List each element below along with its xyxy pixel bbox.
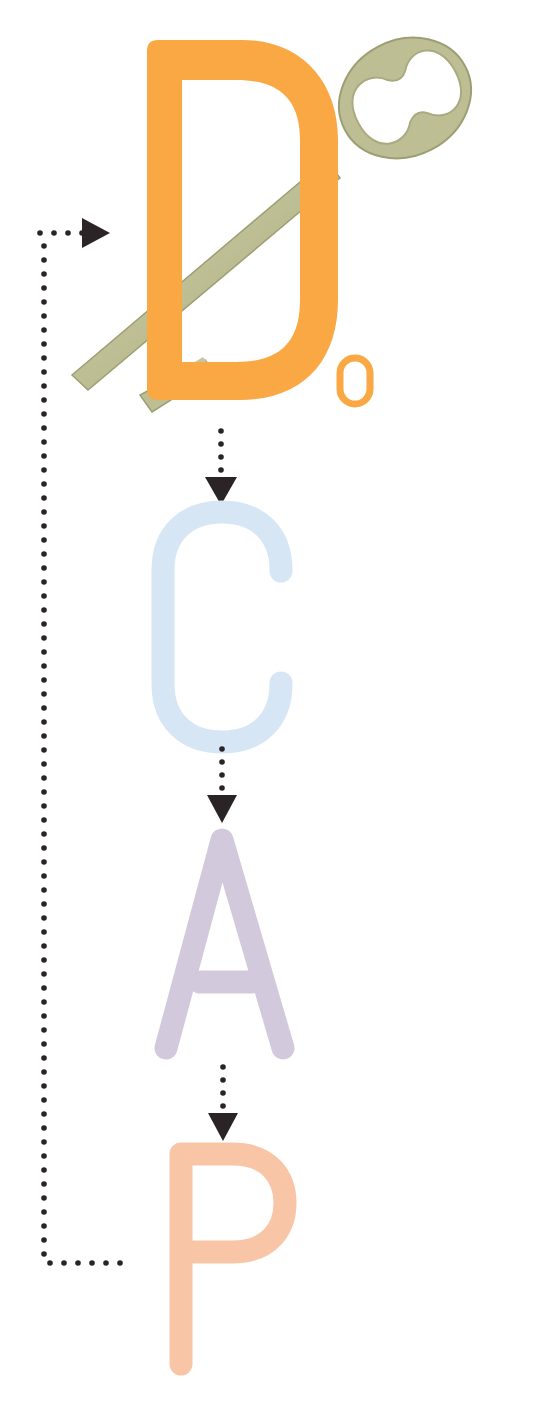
letter-a <box>166 840 283 1048</box>
arrow-c-to-a <box>207 746 237 823</box>
subscript-zero <box>340 358 370 404</box>
arrow-a-to-p <box>208 1064 238 1141</box>
pdca-diagram <box>0 0 542 1421</box>
letter-p <box>181 1154 285 1364</box>
letter-d <box>147 40 338 400</box>
letter-c <box>163 512 281 742</box>
arrow-d-to-c <box>205 428 237 505</box>
